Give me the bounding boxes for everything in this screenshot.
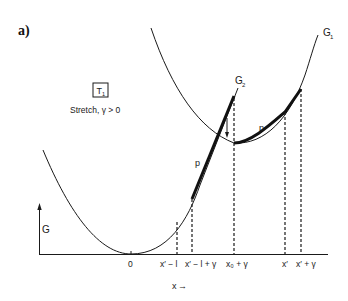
tick-x-minus-l: x′ − l (160, 259, 178, 269)
free-energy-diagram: a) T 1 Stretch, γ > 0 G x → G 1 G 2 p p (0, 0, 348, 301)
t1-subscript: 1 (102, 91, 105, 97)
tick-x-prime-plus-gamma: x′ + γ (296, 259, 317, 269)
y-axis-arrow-icon (37, 203, 41, 210)
tick-origin: 0 (128, 259, 133, 269)
down-arrow-icon (225, 132, 229, 138)
tick-x-prime: x′ (282, 259, 288, 269)
y-axis-label: G (42, 224, 50, 235)
g1-subscript: 1 (330, 34, 334, 40)
tangent-left (192, 96, 234, 199)
x-axis-arrow-icon: → (178, 281, 187, 291)
t1-box: T 1 (93, 83, 108, 97)
axes (37, 203, 328, 255)
g2-subscript: 2 (242, 82, 246, 88)
x-axis-label: x (172, 281, 177, 291)
tick-x-minus-l-plus-gamma: x′ − l + γ (185, 259, 217, 269)
panel-label: a) (18, 23, 30, 39)
tick-x0-plus-gamma: x₀ + γ (226, 259, 248, 269)
tangent-label-right: p (259, 123, 264, 133)
tangent-label-left: p (195, 158, 200, 168)
condition-text: Stretch, γ > 0 (70, 105, 121, 115)
tangent-right (234, 89, 301, 143)
